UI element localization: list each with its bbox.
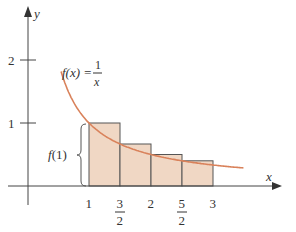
curve-1-over-x — [61, 72, 243, 168]
y-axis-arrow-icon — [24, 6, 32, 17]
x-axis-arrow-icon — [272, 182, 282, 190]
function-denominator: x — [93, 75, 100, 89]
riemann-rectangle — [89, 123, 120, 186]
x-tick-label-2: 2 — [148, 196, 155, 211]
function-label: f(x) = — [62, 65, 92, 80]
brace-icon — [77, 124, 86, 186]
x-tick-label-3: 3 — [210, 196, 217, 211]
y-tick-label-1: 1 — [8, 116, 15, 131]
y-axis-label: y — [32, 6, 40, 21]
x-tick-label-5-2-num: 5 — [179, 196, 186, 211]
x-tick-label-5-2-den: 2 — [179, 213, 186, 228]
brace-label: f(1) — [48, 147, 67, 162]
x-axis-label: x — [265, 169, 272, 184]
x-tick-label-3-2-num: 3 — [117, 196, 124, 211]
riemann-rectangle — [151, 155, 182, 187]
y-tick-label-2: 2 — [8, 53, 15, 68]
function-numerator: 1 — [95, 58, 101, 72]
x-tick-label-1: 1 — [86, 196, 93, 211]
riemann-sum-diagram: x y 2 1 1 3 2 2 5 2 3 f(x) = 1 x f(1) — [0, 0, 296, 232]
x-tick-label-3-2-den: 2 — [117, 213, 124, 228]
